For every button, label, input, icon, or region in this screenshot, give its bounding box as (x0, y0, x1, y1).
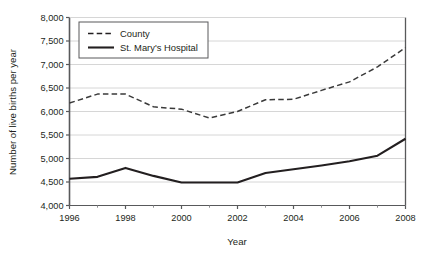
x-axis-tick-labels: 1996199820002002200420062008 (59, 213, 415, 223)
x-tick-label: 2002 (227, 213, 247, 223)
x-tick-label: 2008 (395, 213, 415, 223)
series-line-2 (70, 139, 406, 183)
legend-label-1: County (120, 28, 150, 39)
x-tick-label: 2006 (339, 213, 359, 223)
x-axis-title: Year (227, 236, 247, 247)
y-axis-tick-labels: 4,0004,5005,0005,5006,0006,5007,0007,500… (41, 13, 64, 211)
y-tick-label: 4,000 (41, 201, 64, 211)
data-series-group (70, 48, 406, 183)
y-tick-label: 6,500 (41, 83, 64, 93)
y-tick-label: 5,500 (41, 130, 64, 140)
chart-canvas: 4,0004,5005,0005,5006,0006,5007,0007,500… (0, 0, 427, 255)
y-tick-label: 5,000 (41, 154, 64, 164)
y-tick-label: 8,000 (41, 13, 64, 23)
x-tick-label: 2004 (283, 213, 303, 223)
x-tick-label: 1998 (115, 213, 135, 223)
y-tick-label: 7,000 (41, 60, 64, 70)
y-tick-label: 4,500 (41, 177, 64, 187)
x-tick-label: 2000 (171, 213, 191, 223)
y-tick-label: 6,000 (41, 107, 64, 117)
x-tick-label: 1996 (59, 213, 79, 223)
y-axis-title: Number of live births per year (7, 48, 18, 175)
y-tick-label: 7,500 (41, 36, 64, 46)
legend-label-2: St. Mary's Hospital (120, 42, 198, 53)
births-line-chart: 4,0004,5005,0005,5006,0006,5007,0007,500… (0, 0, 427, 255)
chart-legend: CountySt. Mary's Hospital (79, 22, 208, 58)
